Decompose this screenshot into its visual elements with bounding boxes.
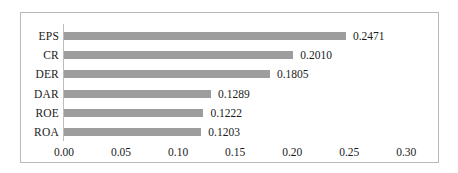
bar — [64, 51, 293, 59]
plot-area: EPS0.2471CR0.2010DER0.1805DAR0.1289ROE0.… — [21, 13, 438, 162]
bar-row: ROA0.1203 — [21, 123, 438, 142]
bar — [64, 70, 270, 78]
category-label: EPS — [21, 29, 59, 44]
category-label: DAR — [21, 87, 59, 102]
bar-value-label: 0.1203 — [208, 125, 240, 140]
bar — [64, 90, 211, 98]
bar — [64, 109, 203, 117]
chart-frame: EPS0.2471CR0.2010DER0.1805DAR0.1289ROE0.… — [20, 12, 439, 163]
bar-value-label: 0.2010 — [300, 48, 332, 63]
bar-row: DER0.1805 — [21, 65, 438, 84]
x-tick-label: 0.00 — [54, 145, 74, 160]
bar-value-label: 0.1805 — [277, 67, 309, 82]
bar-row: ROE0.1222 — [21, 104, 438, 123]
bar-value-label: 0.1222 — [210, 106, 242, 121]
bar-row: EPS0.2471 — [21, 27, 438, 46]
category-label: ROA — [21, 125, 59, 140]
bar — [64, 32, 346, 40]
bar-row: CR0.2010 — [21, 46, 438, 65]
x-axis: 0.000.050.100.150.200.250.30 — [21, 142, 438, 164]
x-tick-label: 0.05 — [111, 145, 131, 160]
x-tick-label: 0.30 — [396, 145, 416, 160]
bar-value-label: 0.2471 — [353, 29, 385, 44]
x-tick-label: 0.25 — [339, 145, 359, 160]
category-label: DER — [21, 67, 59, 82]
category-label: ROE — [21, 106, 59, 121]
x-tick-label: 0.20 — [282, 145, 302, 160]
bar-value-label: 0.1289 — [218, 87, 250, 102]
bar-row: DAR0.1289 — [21, 85, 438, 104]
x-tick-label: 0.15 — [225, 145, 245, 160]
category-label: CR — [21, 48, 59, 63]
x-tick-label: 0.10 — [168, 145, 188, 160]
bar — [64, 128, 201, 136]
